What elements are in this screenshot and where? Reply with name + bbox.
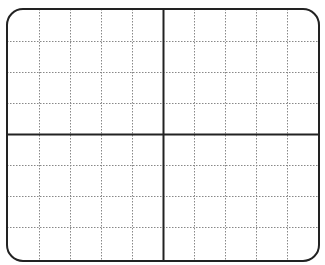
axes bbox=[7, 9, 319, 261]
coordinate-grid bbox=[0, 0, 325, 265]
